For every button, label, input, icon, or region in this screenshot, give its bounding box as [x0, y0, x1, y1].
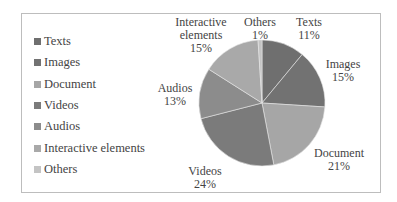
data-label-interactive-elements: Interactiveelements15%: [175, 16, 226, 55]
data-label-images: Images15%: [326, 58, 361, 84]
data-label-others: Others1%: [244, 16, 276, 42]
data-label-texts: Texts11%: [296, 16, 322, 42]
data-label-document: Document21%: [314, 147, 364, 173]
data-label-videos: Videos24%: [188, 165, 221, 191]
data-label-audios: Audios13%: [158, 82, 193, 108]
